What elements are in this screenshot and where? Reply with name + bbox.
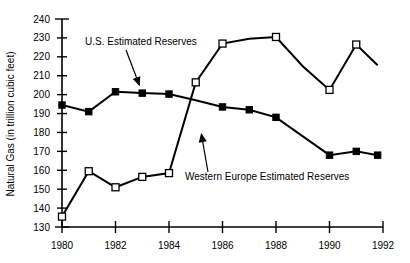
data-point-us-1983 <box>139 90 145 96</box>
data-point-western-europe-1983 <box>139 173 146 180</box>
x-tick-label-1992: 1992 <box>372 240 395 251</box>
y-tick-label-150: 150 <box>33 184 50 195</box>
x-tick-label-1984: 1984 <box>158 240 181 251</box>
y-tick-label-190: 190 <box>33 108 50 119</box>
y-tick-label-170: 170 <box>33 146 50 157</box>
x-tick-label-1982: 1982 <box>104 240 127 251</box>
data-point-western-europe-1990 <box>326 86 333 93</box>
x-tick-label-1990: 1990 <box>318 240 341 251</box>
x-tick-label-1988: 1988 <box>265 240 288 251</box>
x-tick-label-1980: 1980 <box>51 240 74 251</box>
data-point-western-europe-1981 <box>85 168 92 175</box>
annotation-label-us: U.S. Estimated Reserves <box>85 36 197 47</box>
data-point-western-europe-1991 <box>353 41 360 48</box>
data-point-western-europe-1985 <box>192 79 199 86</box>
y-tick-label-220: 220 <box>33 51 50 62</box>
x-tick-label-1986: 1986 <box>211 240 234 251</box>
y-tick-label-200: 200 <box>33 89 50 100</box>
data-point-western-europe-1986 <box>219 40 226 47</box>
data-point-us-1986 <box>219 104 225 110</box>
data-point-western-europe-1980 <box>59 213 66 220</box>
data-point-western-europe-1988 <box>273 33 280 40</box>
annotation-label-western-europe: Western Europe Estimated Reserves <box>185 171 349 182</box>
data-point-us-1984 <box>166 91 172 97</box>
data-point-us-1991.8 <box>374 152 380 158</box>
data-point-us-1990 <box>326 152 332 158</box>
data-point-us-1987 <box>246 107 252 113</box>
data-point-us-1991 <box>353 148 359 154</box>
y-tick-label-160: 160 <box>33 165 50 176</box>
data-point-us-1980 <box>59 102 65 108</box>
y-tick-label-230: 230 <box>33 32 50 43</box>
data-point-us-1988 <box>273 114 279 120</box>
y-tick-label-240: 240 <box>33 14 50 25</box>
data-point-western-europe-1982 <box>112 184 119 191</box>
data-point-western-europe-1984 <box>166 170 173 177</box>
y-tick-label-210: 210 <box>33 70 50 81</box>
y-axis-title: Natural Gas (in trillion cubic feet) <box>5 51 16 196</box>
natural-gas-reserves-chart: Natural Gas (in trillion cubic feet) 130… <box>0 0 410 263</box>
y-tick-label-140: 140 <box>33 203 50 214</box>
data-point-us-1982 <box>112 89 118 95</box>
y-tick-label-180: 180 <box>33 127 50 138</box>
data-point-us-1981 <box>86 108 92 114</box>
y-tick-label-130: 130 <box>33 222 50 233</box>
